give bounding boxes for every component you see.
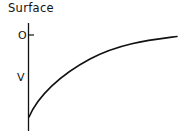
plot-area xyxy=(0,0,183,138)
potential-curve xyxy=(29,37,177,118)
